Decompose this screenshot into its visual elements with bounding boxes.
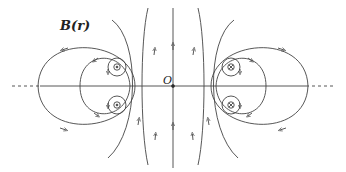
field-label: B(r) [60,18,90,33]
field-line [108,20,133,158]
current-out-icon [114,102,120,108]
current-out-icon [114,64,120,70]
current-in-icon [228,102,234,108]
origin-label: O [163,74,172,87]
field-line [142,8,148,165]
field-line [213,20,238,158]
field-line-diagram [0,0,346,172]
field-line [198,8,204,165]
current-in-icon [228,64,234,70]
